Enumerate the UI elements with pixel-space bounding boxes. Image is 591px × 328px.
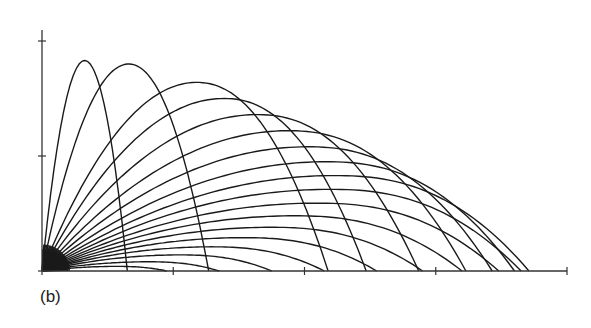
trajectory-curves bbox=[42, 61, 529, 272]
trajectory-chart bbox=[0, 0, 591, 328]
figure-caption: (b) bbox=[40, 287, 61, 307]
trajectory-curve bbox=[42, 82, 328, 271]
trajectory-curve bbox=[42, 176, 529, 271]
